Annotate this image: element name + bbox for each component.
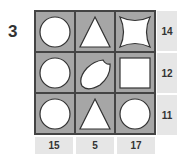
column-total-2: 5 — [76, 137, 114, 154]
cell-r1c1 — [35, 11, 75, 52]
triangle-icon — [78, 97, 112, 131]
cell-r1c2 — [75, 11, 115, 52]
row-total-3: 11 — [157, 95, 177, 135]
column-total-1: 15 — [35, 137, 73, 154]
row-total-2: 12 — [157, 53, 177, 93]
circle-icon — [118, 97, 152, 131]
cell-r2c2 — [75, 52, 115, 93]
cell-r1c3 — [115, 11, 155, 52]
cell-r3c2 — [75, 93, 115, 134]
puzzle-number: 3 — [8, 22, 17, 42]
shape-grid — [34, 10, 156, 135]
circle-icon — [38, 15, 72, 49]
triangle-icon — [78, 15, 112, 49]
row-total-1: 14 — [157, 11, 177, 51]
star4-icon — [118, 15, 152, 49]
bitten-oval-icon — [78, 56, 112, 90]
column-total-3: 17 — [117, 137, 155, 154]
cell-r2c3 — [115, 52, 155, 93]
cell-r3c3 — [115, 93, 155, 134]
cell-r3c1 — [35, 93, 75, 134]
cell-r2c1 — [35, 52, 75, 93]
square-icon — [118, 56, 152, 90]
circle-icon — [38, 97, 72, 131]
circle-icon — [38, 56, 72, 90]
